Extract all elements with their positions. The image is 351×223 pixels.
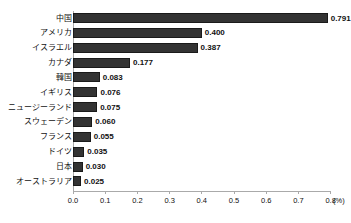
x-tick-label: 0.8 (316, 196, 346, 205)
x-tick-mark (137, 191, 138, 194)
bar-value-label: 0.035 (87, 147, 107, 157)
category-label: 韓国 (56, 73, 72, 83)
x-tick-mark (298, 191, 299, 194)
bar (73, 72, 100, 82)
bar-value-label: 0.400 (205, 28, 225, 38)
x-tick-label: 0.5 (219, 196, 249, 205)
bar (73, 162, 83, 172)
bar-value-label: 0.791 (331, 14, 351, 24)
x-tick-mark (234, 191, 235, 194)
x-tick-label: 0.4 (187, 196, 217, 205)
bar (73, 147, 84, 157)
bar-value-label: 0.060 (95, 117, 115, 127)
x-tick-label: 0.6 (251, 196, 281, 205)
bar-value-label: 0.025 (84, 177, 104, 187)
bar (73, 58, 130, 68)
bar-value-label: 0.083 (103, 73, 123, 83)
bar-value-label: 0.075 (100, 103, 120, 113)
bar (73, 102, 97, 112)
category-label: アメリカ (40, 28, 72, 38)
x-tick-mark (266, 191, 267, 194)
bar-value-label: 0.055 (94, 132, 114, 142)
bar-value-label: 0.030 (86, 162, 106, 172)
bar (73, 43, 198, 53)
bar-value-label: 0.387 (201, 43, 221, 53)
category-label: イスラエル (32, 43, 72, 53)
x-tick-mark (105, 191, 106, 194)
category-label: イギリス (40, 88, 72, 98)
x-tick-mark (201, 191, 202, 194)
x-tick-mark (169, 191, 170, 194)
bar (73, 13, 328, 23)
x-tick-mark (330, 191, 331, 194)
x-tick-label: 0.7 (283, 196, 313, 205)
category-label: カナダ (48, 58, 72, 68)
x-tick-label: 0.0 (58, 196, 88, 205)
bar (73, 117, 92, 127)
category-label: フランス (40, 132, 72, 142)
x-tick-mark (73, 191, 74, 194)
bar (73, 132, 91, 142)
x-tick-label: 0.3 (155, 196, 185, 205)
category-label: 日本 (56, 162, 72, 172)
category-label: 中国 (56, 14, 72, 24)
bar-value-label: 0.177 (133, 58, 153, 68)
category-label: オーストラリア (16, 177, 72, 187)
category-label: スウェーデン (24, 117, 72, 127)
bar-value-label: 0.076 (100, 88, 120, 98)
bar (73, 87, 97, 97)
bar (73, 176, 81, 186)
x-tick-label: 0.2 (122, 196, 152, 205)
category-label: ニュージーランド (8, 103, 72, 113)
bar (73, 28, 202, 38)
category-label: ドイツ (48, 147, 72, 157)
x-tick-label: 0.1 (90, 196, 120, 205)
